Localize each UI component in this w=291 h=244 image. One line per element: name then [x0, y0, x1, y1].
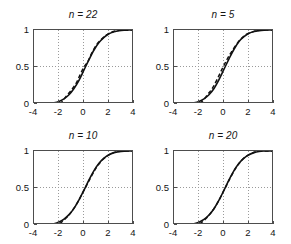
- x-tick-mark-4-0: [173, 221, 174, 224]
- y-tick-mark-4-0: [174, 224, 177, 225]
- panel-title-4: n = 20: [158, 130, 288, 141]
- y-tick-mark-4-2: [174, 150, 177, 151]
- x-tick-mark-4-1: [198, 221, 199, 224]
- y-tick-label-4-0: 0: [143, 219, 169, 230]
- x-tick-label-4-0: -4: [169, 227, 177, 238]
- y-tick-mark-4-1: [174, 187, 177, 188]
- series-4-2-dashed: [174, 151, 273, 224]
- x-tick-label-4-4: 4: [270, 227, 275, 238]
- y-tick-label-4-1: 0.5: [143, 182, 169, 193]
- curve-layer-4: [174, 151, 273, 224]
- series-4-1-solid: [174, 151, 273, 224]
- x-tick-mark-4-2: [223, 221, 224, 224]
- x-tick-label-4-1: -2: [194, 227, 202, 238]
- plot-area-4: [173, 150, 273, 224]
- x-tick-label-4-2: 0: [220, 227, 225, 238]
- x-tick-label-4-3: 2: [245, 227, 250, 238]
- figure-canvas: n = 2200.51-4-2024n = 500.51-4-2024n = 1…: [0, 0, 291, 244]
- x-tick-mark-4-4: [273, 221, 274, 224]
- subplot-panel-4: n = 2000.51-4-2024: [0, 0, 291, 244]
- y-tick-label-4-2: 1: [143, 145, 169, 156]
- x-tick-mark-4-3: [248, 221, 249, 224]
